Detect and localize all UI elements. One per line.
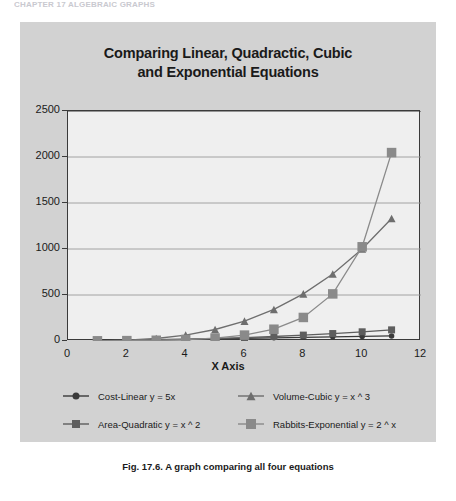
legend-label: Rabbits-Exponential y = 2 ^ x (273, 419, 396, 430)
data-point (93, 336, 103, 341)
series-line (97, 153, 391, 341)
legend-row: Cost-Linear y = 5x Volume-Cubic y = x ^ … (62, 389, 412, 403)
legend-marker-square-icon (62, 417, 90, 431)
legend-marker-triangle-icon (237, 389, 265, 403)
series-3 (93, 148, 397, 341)
legend-item-cost-linear: Cost-Linear y = 5x (62, 389, 237, 403)
data-point (387, 148, 397, 158)
legend-row: Area-Quadratic y = x ^ 2 Rabbits-Exponen… (62, 417, 412, 431)
legend-label: Cost-Linear y = 5x (98, 391, 175, 402)
figure-page: CHAPTER 17 ALGEBRAIC GRAPHS Comparing Li… (0, 0, 456, 501)
legend-marker-circle-icon (62, 389, 90, 403)
running-header: CHAPTER 17 ALGEBRAIC GRAPHS (14, 0, 254, 8)
data-point (299, 313, 309, 323)
data-point (122, 336, 132, 341)
data-point (270, 333, 277, 340)
y-axis-tick-label: 2500 (20, 104, 60, 115)
x-axis-tick-label: 2 (111, 348, 141, 359)
data-point (181, 335, 191, 341)
x-axis-tick-label: 0 (52, 348, 82, 359)
data-point (270, 306, 278, 314)
legend-label: Volume-Cubic y = x ^ 3 (273, 391, 370, 402)
y-axis-tick-mark (62, 340, 67, 341)
x-axis-tick-label: 12 (405, 348, 435, 359)
data-point (389, 333, 395, 339)
series-layer (93, 148, 397, 341)
chart-title: Comparing Linear, Quadractic, Cubic and … (20, 44, 436, 82)
y-axis-tick-label: 2000 (20, 150, 60, 161)
series-2 (93, 215, 395, 341)
x-axis-tick-label: 10 (346, 348, 376, 359)
x-axis-title: X Axis (20, 360, 436, 372)
legend-item-rabbits-exponential: Rabbits-Exponential y = 2 ^ x (237, 417, 412, 431)
data-point (269, 324, 279, 334)
plot-area (67, 110, 420, 340)
data-point (328, 289, 338, 299)
chart-title-line-1: Comparing Linear, Quadractic, Cubic (20, 44, 436, 63)
legend-item-area-quadratic: Area-Quadratic y = x ^ 2 (62, 417, 237, 431)
x-axis-tick-label: 8 (287, 348, 317, 359)
chart-title-line-2: and Exponential Equations (20, 63, 436, 82)
data-point (329, 330, 336, 337)
legend-item-volume-cubic: Volume-Cubic y = x ^ 3 (237, 389, 412, 403)
data-point (210, 333, 220, 341)
y-axis-tick-label: 0 (20, 334, 60, 345)
data-point (241, 317, 249, 325)
data-point (388, 215, 396, 223)
chart-canvas (68, 111, 421, 341)
data-point (152, 336, 162, 341)
y-axis-tick-label: 500 (20, 288, 60, 299)
data-point (240, 330, 250, 340)
chart-legend: Cost-Linear y = 5x Volume-Cubic y = x ^ … (62, 389, 412, 445)
legend-label: Area-Quadratic y = x ^ 2 (98, 419, 200, 430)
data-point (300, 332, 307, 339)
x-axis-tick-label: 6 (229, 348, 259, 359)
x-axis-tick-label: 4 (170, 348, 200, 359)
data-point (357, 242, 367, 252)
y-axis-tick-label: 1500 (20, 196, 60, 207)
data-point (359, 328, 366, 335)
y-axis-tick-label: 1000 (20, 242, 60, 253)
chart-panel: Comparing Linear, Quadractic, Cubic and … (20, 22, 436, 442)
legend-marker-square-light-icon (237, 417, 265, 431)
gridlines (68, 111, 421, 295)
figure-caption: Fig. 17.6. A graph comparing all four eq… (0, 461, 456, 472)
data-point (388, 326, 395, 333)
